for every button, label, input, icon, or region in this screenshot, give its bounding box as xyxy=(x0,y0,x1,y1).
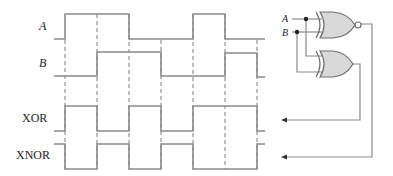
xor-output-arrow-icon xyxy=(281,118,287,123)
xnor-output-arrow-icon xyxy=(281,155,287,160)
diagram-graphics xyxy=(0,0,393,176)
waveform-xnor xyxy=(54,144,265,169)
waveform-b xyxy=(54,52,265,77)
xnor-gate-icon xyxy=(316,12,361,38)
junction-dot-b xyxy=(295,30,299,34)
junction-dot-a xyxy=(304,17,308,21)
circuit-wiring xyxy=(286,19,372,157)
xor-gate-icon xyxy=(316,51,353,77)
xor-xnor-timing-diagram: A B XOR XNOR A B xyxy=(0,0,393,176)
waveform-xor xyxy=(54,106,265,131)
waveform-a xyxy=(54,14,265,39)
